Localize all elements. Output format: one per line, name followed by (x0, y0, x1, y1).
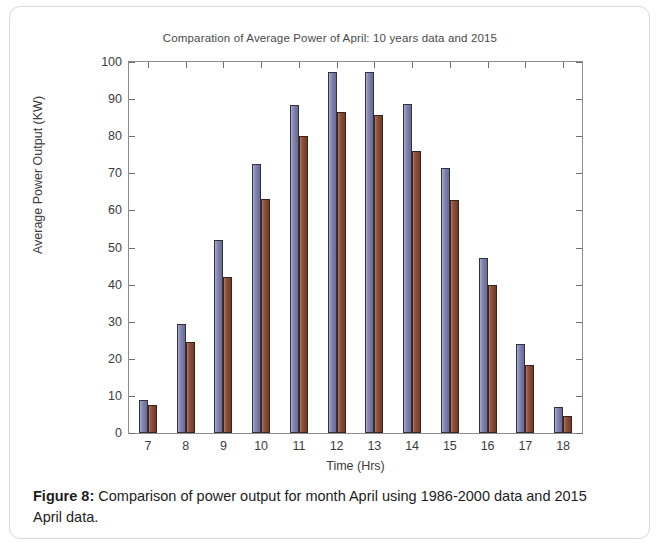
bar-10-series-1 (261, 199, 270, 433)
x-axis-tick-top (450, 62, 451, 68)
y-axis-tick-right (576, 173, 582, 174)
bar-8-series-0 (177, 324, 186, 433)
y-axis-tick (129, 136, 135, 137)
x-axis-tick-label: 16 (481, 439, 495, 453)
x-axis-tick-top (223, 62, 224, 68)
x-axis-tick-label: 8 (182, 439, 189, 453)
bar-16-series-0 (479, 258, 488, 433)
y-axis-tick-label: 10 (108, 389, 122, 403)
y-axis-tick-right (576, 62, 582, 63)
y-axis-tick (129, 248, 135, 249)
x-axis-tick-top (412, 62, 413, 68)
bar-17-series-0 (516, 344, 525, 433)
y-axis-tick (129, 99, 135, 100)
y-axis-tick-label: 0 (115, 426, 122, 440)
bar-15-series-0 (441, 168, 450, 433)
y-axis-tick-label: 40 (108, 278, 122, 292)
bar-14-series-1 (412, 151, 421, 433)
y-axis-tick (129, 285, 135, 286)
x-axis-tick-label: 9 (220, 439, 227, 453)
y-axis-tick-label: 70 (108, 166, 122, 180)
figure-caption: Figure 8: Comparison of power output for… (33, 486, 618, 527)
bar-13-series-0 (365, 72, 374, 433)
y-axis-tick (129, 62, 135, 63)
bar-11-series-0 (290, 105, 299, 433)
bar-7-series-0 (139, 400, 148, 433)
x-axis-tick-top (299, 62, 300, 68)
y-axis-tick-label: 80 (108, 129, 122, 143)
x-axis-tick-label: 15 (443, 439, 457, 453)
plot-area: 0102030405060708090100789101112131415161… (128, 61, 583, 434)
x-axis-tick-label: 10 (254, 439, 268, 453)
bar-14-series-0 (403, 104, 412, 433)
y-axis-tick (129, 396, 135, 397)
bar-13-series-1 (374, 115, 383, 433)
figure-number-label: Figure 8: (33, 488, 94, 504)
y-axis-tick-label: 50 (108, 241, 122, 255)
y-axis-tick-label: 100 (101, 55, 122, 69)
y-axis-tick-right (576, 285, 582, 286)
x-axis-tick-label: 13 (367, 439, 381, 453)
bar-12-series-0 (328, 72, 337, 433)
y-axis-tick-label: 20 (108, 352, 122, 366)
x-axis-tick-top (563, 62, 564, 68)
bar-16-series-1 (488, 285, 497, 433)
bar-8-series-1 (186, 342, 195, 433)
y-axis-tick-right (576, 248, 582, 249)
bar-17-series-1 (525, 365, 534, 433)
bar-15-series-1 (450, 200, 459, 433)
x-axis-tick-top (525, 62, 526, 68)
x-axis-tick-label: 14 (405, 439, 419, 453)
y-axis-tick-right (576, 396, 582, 397)
x-axis-tick-label: 11 (292, 439, 305, 453)
chart-title: Comparation of Average Power of April: 1… (0, 32, 660, 44)
y-axis-tick (129, 359, 135, 360)
bar-9-series-0 (214, 240, 223, 433)
bar-12-series-1 (337, 112, 346, 433)
x-axis-tick-label: 7 (144, 439, 151, 453)
x-axis-tick-top (337, 62, 338, 68)
x-axis-tick-top (261, 62, 262, 68)
figure-caption-text: Comparison of power output for month Apr… (33, 488, 587, 525)
y-axis-tick-right (576, 136, 582, 137)
x-axis-tick-top (186, 62, 187, 68)
y-axis-tick (129, 322, 135, 323)
y-axis-tick (129, 173, 135, 174)
x-axis-title: Time (Hrs) (128, 459, 583, 473)
bar-18-series-1 (563, 416, 572, 433)
y-axis-tick (129, 210, 135, 211)
bar-11-series-1 (299, 136, 308, 433)
y-axis-tick-right (576, 322, 582, 323)
bar-7-series-1 (148, 405, 157, 433)
figure-chart: Comparation of Average Power of April: 1… (0, 0, 660, 470)
x-axis-tick-label: 18 (556, 439, 570, 453)
y-axis-tick-right (576, 99, 582, 100)
x-axis-tick-top (148, 62, 149, 68)
x-axis-tick-label: 17 (518, 439, 532, 453)
y-axis-tick-right (576, 433, 582, 434)
y-axis-tick-label: 30 (108, 315, 122, 329)
bar-9-series-1 (223, 277, 232, 433)
figure-page: Comparation of Average Power of April: 1… (0, 0, 660, 547)
x-axis-tick-top (488, 62, 489, 68)
y-axis-tick-label: 90 (108, 92, 122, 106)
x-axis-tick-label: 12 (330, 439, 344, 453)
y-axis-tick (129, 433, 135, 434)
plot-inner: 0102030405060708090100789101112131415161… (129, 62, 582, 433)
x-axis-tick-top (374, 62, 375, 68)
bar-10-series-0 (252, 164, 261, 433)
y-axis-tick-label: 60 (108, 203, 122, 217)
y-axis-tick-right (576, 210, 582, 211)
bar-18-series-0 (554, 407, 563, 433)
y-axis-title: Average Power Output (KW) (31, 75, 45, 275)
y-axis-tick-right (576, 359, 582, 360)
